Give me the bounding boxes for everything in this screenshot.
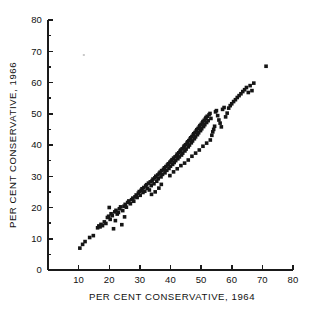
- data-point: [104, 222, 108, 226]
- data-point: [123, 215, 127, 219]
- y-tick-label: 70: [31, 46, 42, 57]
- data-point: [205, 141, 209, 145]
- data-point: [252, 81, 256, 85]
- data-point: [186, 158, 190, 162]
- data-point: [125, 205, 129, 209]
- scatter-plot-figure: 1020304050607080 01020304050607080 PER C…: [0, 0, 310, 312]
- data-point: [183, 161, 187, 165]
- x-tick-label: 10: [73, 274, 84, 285]
- x-tick-label: 70: [257, 274, 268, 285]
- data-point: [197, 148, 201, 152]
- y-tick-label: 80: [31, 14, 42, 25]
- plot-canvas: 1020304050607080 01020304050607080 PER C…: [0, 0, 310, 312]
- data-point: [172, 170, 176, 174]
- data-point: [150, 193, 154, 197]
- scatter-points: [78, 64, 268, 249]
- data-point: [190, 154, 194, 158]
- data-point: [225, 111, 229, 115]
- y-tick-label: 10: [31, 233, 42, 244]
- x-tick-label: 80: [288, 274, 299, 285]
- data-point: [216, 114, 220, 118]
- data-point: [92, 234, 96, 238]
- data-point: [107, 206, 111, 210]
- data-point: [179, 164, 183, 168]
- data-point: [148, 188, 152, 192]
- data-point: [101, 224, 105, 228]
- data-point: [111, 214, 115, 218]
- data-point: [117, 211, 121, 215]
- data-point: [209, 117, 213, 121]
- x-tick-label: 20: [104, 274, 115, 285]
- axes-group: [48, 20, 293, 270]
- data-point: [246, 91, 250, 95]
- y-axis-tick-labels: 01020304050607080: [31, 14, 42, 275]
- x-tick-label: 40: [165, 274, 176, 285]
- data-point: [248, 84, 252, 88]
- data-point: [160, 183, 164, 187]
- data-point: [153, 190, 157, 194]
- data-point: [201, 144, 205, 148]
- data-point: [88, 236, 92, 240]
- data-point: [132, 199, 136, 203]
- data-point: [175, 167, 179, 171]
- data-point: [218, 121, 222, 125]
- data-point: [208, 112, 212, 116]
- y-tick-label: 50: [31, 108, 42, 119]
- x-axis-tick-labels: 1020304050607080: [73, 274, 298, 285]
- data-point: [121, 209, 125, 213]
- data-point: [120, 223, 124, 227]
- stray-marks: [83, 54, 85, 56]
- data-point: [209, 138, 213, 142]
- data-point: [222, 106, 226, 110]
- data-point: [194, 151, 198, 155]
- x-axis-title: PER CENT CONSERVATIVE, 1964: [89, 291, 255, 302]
- x-tick-label: 60: [226, 274, 237, 285]
- data-point: [119, 205, 123, 209]
- y-tick-label: 20: [31, 202, 42, 213]
- data-point: [168, 174, 172, 178]
- y-tick-label: 30: [31, 171, 42, 182]
- stray-speckle: [83, 54, 85, 56]
- y-tick-label: 0: [37, 264, 42, 275]
- y-axis-title: PER CENT CONSERVATIVE, 1966: [7, 62, 18, 228]
- data-point: [210, 134, 214, 138]
- data-point: [224, 115, 228, 119]
- data-point: [112, 227, 116, 231]
- x-tick-label: 30: [134, 274, 145, 285]
- data-point: [78, 246, 82, 250]
- data-point: [129, 202, 133, 206]
- data-point: [83, 240, 87, 244]
- x-tick-label: 50: [196, 274, 207, 285]
- data-point: [217, 118, 221, 122]
- data-point: [213, 124, 217, 128]
- data-point: [114, 219, 118, 223]
- data-point: [250, 89, 254, 93]
- data-point: [108, 218, 112, 222]
- y-tick-label: 40: [31, 139, 42, 150]
- data-point: [157, 186, 161, 190]
- data-point: [212, 128, 216, 132]
- data-point: [220, 125, 224, 129]
- data-point: [245, 86, 249, 90]
- data-point: [264, 64, 268, 68]
- y-tick-label: 60: [31, 77, 42, 88]
- data-point: [215, 109, 219, 113]
